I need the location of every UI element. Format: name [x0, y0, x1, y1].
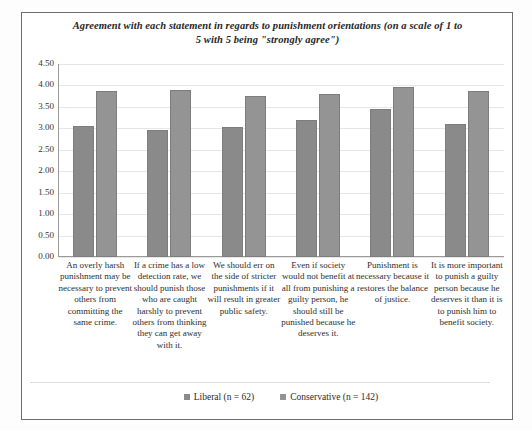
- bar: [319, 94, 340, 257]
- bar-group: [281, 64, 355, 257]
- y-tick-label: 0.00: [24, 252, 54, 261]
- chart-title: Agreement with each statement in regards…: [40, 19, 495, 47]
- chart-title-line-1: Agreement with each statement in regards…: [40, 19, 495, 33]
- bar: [445, 124, 466, 257]
- chart-figure: Agreement with each statement in regards…: [0, 0, 532, 431]
- y-tick-label: 1.50: [24, 188, 54, 197]
- legend-swatch-icon: [280, 394, 286, 400]
- x-tick-label: Punishment is necessary because it resto…: [355, 260, 429, 306]
- bars-layer: [58, 64, 504, 257]
- chart-legend: Liberal (n = 62)Conservative (n = 142): [58, 389, 504, 405]
- y-tick-label: 0.50: [24, 231, 54, 240]
- y-tick-label: 3.50: [24, 102, 54, 111]
- bar-group: [355, 64, 429, 257]
- bar: [468, 91, 489, 257]
- x-tick-label: It is more important to punish a guilty …: [430, 260, 504, 328]
- y-axis-tick-labels: 4.504.003.503.002.502.001.501.000.500.00: [24, 64, 54, 257]
- bar: [393, 87, 414, 257]
- bar: [245, 96, 266, 257]
- bar: [96, 91, 117, 257]
- bar: [73, 126, 94, 257]
- gridline: [59, 257, 504, 258]
- legend-label: Liberal (n = 62): [194, 392, 255, 402]
- x-tick-label: We should err on the side of stricter pu…: [207, 260, 281, 317]
- legend-item: Liberal (n = 62): [184, 392, 255, 402]
- bar-group: [430, 64, 504, 257]
- legend-label: Conservative (n = 142): [290, 392, 378, 402]
- bar: [370, 109, 391, 257]
- legend-swatch-icon: [184, 394, 190, 400]
- y-tick-label: 4.00: [24, 80, 54, 89]
- bar: [296, 120, 317, 257]
- x-tick-label: If a crime has a low detection rate, we …: [132, 260, 206, 351]
- bar-group: [207, 64, 281, 257]
- chart-title-line-2: 5 with 5 being "strongly agree"): [40, 33, 495, 47]
- bar: [222, 127, 243, 257]
- bar-group: [132, 64, 206, 257]
- bar: [170, 90, 191, 257]
- legend-item: Conservative (n = 142): [280, 392, 378, 402]
- x-tick-label: An overly harsh punishment may be necess…: [58, 260, 132, 328]
- bar: [147, 130, 168, 257]
- y-tick-label: 2.50: [24, 145, 54, 154]
- y-tick-label: 4.50: [24, 59, 54, 68]
- y-tick-label: 1.00: [24, 209, 54, 218]
- legend-divider: [30, 382, 490, 383]
- bar-group: [58, 64, 132, 257]
- x-tick-label: Even if society would not benefit at all…: [281, 260, 355, 340]
- x-axis-category-labels: An overly harsh punishment may be necess…: [58, 260, 504, 378]
- y-tick-label: 3.00: [24, 123, 54, 132]
- y-tick-label: 2.00: [24, 166, 54, 175]
